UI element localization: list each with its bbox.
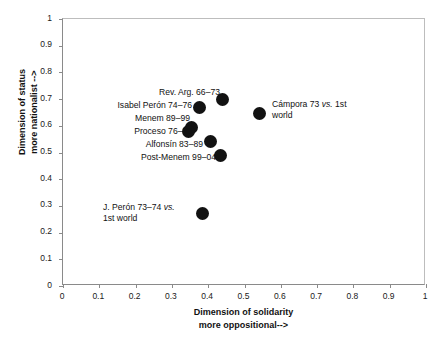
jperon-label-line2: 1st world xyxy=(103,213,175,224)
jperon-label-main: J. Perón 73–74 xyxy=(103,202,164,212)
y-tick-label-0.9: 0.9 xyxy=(0,40,52,49)
y-tick-0.9 xyxy=(59,46,63,47)
point-label-isabel-peron: Isabel Perón 74–76 xyxy=(117,100,192,111)
point-label-jperon: J. Perón 73–74 vs. 1st world xyxy=(103,202,175,225)
data-point xyxy=(193,101,206,114)
x-tick-label-0.5: 0.5 xyxy=(229,292,259,301)
y-axis-title-line2: more nationalist --> xyxy=(28,32,40,192)
x-tick-0.2 xyxy=(136,284,137,288)
jperon-label-vs: vs. xyxy=(164,202,175,212)
y-tick-label-0.5: 0.5 xyxy=(0,147,52,156)
y-tick-label-0.1: 0.1 xyxy=(0,254,52,263)
y-axis-title-line1: Dimension of status xyxy=(16,32,28,192)
point-label-alfonsin: Alfonsín 83–89 xyxy=(146,139,203,150)
plot-area xyxy=(62,18,425,285)
campora-label-vs: vs. xyxy=(322,99,333,109)
point-label-campora: Cámpora 73 vs. 1st world xyxy=(272,99,347,122)
x-tick-1 xyxy=(426,284,427,288)
y-tick-0.8 xyxy=(59,72,63,73)
data-point xyxy=(253,107,266,120)
y-tick-label-1: 1 xyxy=(0,14,52,23)
x-tick-label-0.7: 0.7 xyxy=(301,292,331,301)
x-tick-label-0: 0 xyxy=(47,292,77,301)
y-tick-0.5 xyxy=(59,153,63,154)
x-tick-label-0.1: 0.1 xyxy=(83,292,113,301)
y-tick-1 xyxy=(59,19,63,20)
y-tick-label-0.7: 0.7 xyxy=(0,94,52,103)
x-tick-0.8 xyxy=(353,284,354,288)
data-point xyxy=(196,207,209,220)
x-tick-0.6 xyxy=(281,284,282,288)
point-label-rev-arg: Rev. Arg. 66–73 xyxy=(159,87,220,98)
y-tick-0.6 xyxy=(59,126,63,127)
y-tick-0.4 xyxy=(59,179,63,180)
campora-label-main: Cámpora 73 xyxy=(272,99,322,109)
x-tick-label-1: 1 xyxy=(410,292,440,301)
campora-label-line2: world xyxy=(272,110,347,121)
x-tick-label-0.3: 0.3 xyxy=(156,292,186,301)
x-tick-0.4 xyxy=(208,284,209,288)
y-tick-0.3 xyxy=(59,206,63,207)
y-tick-label-0.3: 0.3 xyxy=(0,200,52,209)
y-tick-label-0.8: 0.8 xyxy=(0,67,52,76)
x-tick-label-0.2: 0.2 xyxy=(120,292,150,301)
point-label-proceso: Proceso 76–83 xyxy=(134,126,192,137)
y-tick-0.1 xyxy=(59,259,63,260)
x-tick-label-0.4: 0.4 xyxy=(192,292,222,301)
x-axis-title-line1: Dimension of solidarity xyxy=(62,306,425,319)
point-label-menem: Menem 89–99 xyxy=(135,113,190,124)
x-tick-0.1 xyxy=(99,284,100,288)
x-axis-title-line2: more oppositional--> xyxy=(62,319,425,332)
x-tick-0.7 xyxy=(317,284,318,288)
y-tick-label-0: 0 xyxy=(0,281,52,290)
y-axis-title: Dimension of status more nationalist --> xyxy=(16,32,40,192)
x-tick-label-0.8: 0.8 xyxy=(337,292,367,301)
x-tick-0.5 xyxy=(245,284,246,288)
data-point xyxy=(204,135,217,148)
data-point xyxy=(214,149,227,162)
y-tick-label-0.6: 0.6 xyxy=(0,120,52,129)
scatter-chart: Dimension of status more nationalist -->… xyxy=(0,0,440,339)
x-tick-0 xyxy=(63,284,64,288)
x-tick-label-0.6: 0.6 xyxy=(265,292,295,301)
y-tick-label-0.4: 0.4 xyxy=(0,174,52,183)
x-axis-title: Dimension of solidarity more oppositiona… xyxy=(62,306,425,331)
y-tick-0.2 xyxy=(59,233,63,234)
y-tick-0.7 xyxy=(59,99,63,100)
point-label-post-menem: Post-Menem 99–04 xyxy=(141,152,216,163)
x-tick-0.3 xyxy=(172,284,173,288)
campora-label-tail: 1st xyxy=(333,99,347,109)
x-tick-label-0.9: 0.9 xyxy=(374,292,404,301)
y-tick-label-0.2: 0.2 xyxy=(0,227,52,236)
x-tick-0.9 xyxy=(390,284,391,288)
